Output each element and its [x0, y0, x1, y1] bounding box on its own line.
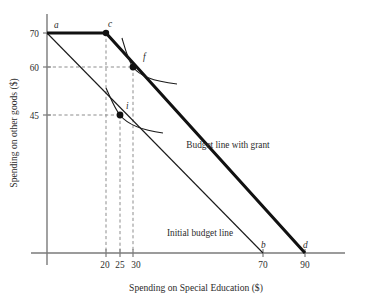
y-tick-label-45: 45 — [30, 111, 40, 121]
point-label-c: c — [108, 19, 113, 29]
x-tick-label-70: 70 — [258, 260, 268, 270]
point-c-marker — [103, 30, 109, 36]
x-tick-labels: 20 25 30 70 90 — [100, 260, 310, 270]
data-points-group — [103, 30, 137, 119]
y-tick-label-60: 60 — [30, 63, 40, 73]
y-tick-labels: 70 60 45 — [30, 29, 40, 121]
x-tick-label-90: 90 — [300, 260, 310, 270]
x-tick-label-30: 30 — [131, 260, 141, 270]
y-axis-title: Spending on other goods ($) — [8, 78, 20, 187]
point-f-marker — [130, 64, 137, 71]
budget-line-chart: 70 60 45 20 25 30 70 90 a c f i b d Budg… — [0, 0, 365, 304]
point-label-f: f — [143, 52, 147, 62]
indifference-curve-f — [122, 38, 177, 84]
annotation-budget-line-with-grant: Budget line with grant — [186, 140, 270, 150]
guide-lines-group — [47, 33, 133, 253]
point-label-b: b — [261, 240, 266, 250]
x-axis-title: Spending on Special Education ($) — [129, 282, 263, 294]
point-label-i: i — [126, 101, 129, 111]
x-tick-label-25: 25 — [115, 260, 125, 270]
x-tick-label-20: 20 — [100, 260, 110, 270]
point-label-d: d — [303, 240, 308, 250]
y-tick-label-70: 70 — [30, 29, 40, 39]
point-i-marker — [117, 112, 124, 119]
indifference-curve-i — [106, 88, 163, 133]
point-label-a: a — [54, 20, 59, 30]
annotation-initial-budget-line: Initial budget line — [167, 228, 233, 238]
